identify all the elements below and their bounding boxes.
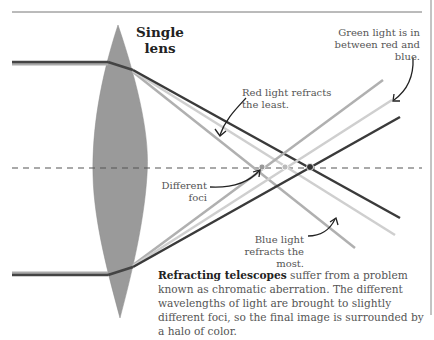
- different-foci-label: Different foci: [157, 180, 207, 204]
- lens-title: Single lens: [131, 24, 189, 56]
- green-label-arrow-icon: [393, 58, 413, 101]
- caption-bold: Refracting telescopes: [158, 269, 287, 281]
- lens-title-line1: Single: [131, 24, 189, 40]
- red-focus-point: [307, 164, 314, 171]
- foci-label-arrow-icon: [210, 170, 260, 187]
- green-focus-point: [282, 164, 288, 170]
- blue-light-label: Blue light refracts the most.: [219, 234, 304, 270]
- caption: Refracting telescopes suffer from a prob…: [158, 268, 426, 338]
- lens-title-line2: lens: [131, 40, 189, 56]
- blue-label-arrow-icon: [308, 218, 338, 236]
- blue-focus-point: [259, 164, 265, 170]
- green-light-label: Green light is in between red and blue.: [330, 27, 420, 63]
- red-light-label: Red light refracts the least.: [242, 87, 342, 111]
